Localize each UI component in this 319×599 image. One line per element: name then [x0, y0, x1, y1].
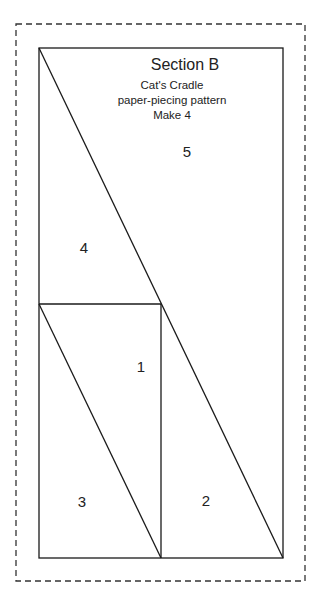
piece-label-3: 3	[78, 493, 86, 510]
section-title: Section B	[151, 56, 219, 74]
piece-label-5: 5	[183, 143, 191, 160]
subtitle-line-3: Make 4	[153, 108, 191, 122]
subtitle-line-2: paper-piecing pattern	[118, 93, 227, 107]
subtitle-line-1: Cat's Cradle	[141, 78, 204, 92]
diagonal-seam-1	[39, 304, 161, 558]
piece-label-2: 2	[202, 492, 210, 509]
piece-label-4: 4	[80, 239, 88, 256]
piece-label-1: 1	[137, 358, 145, 375]
